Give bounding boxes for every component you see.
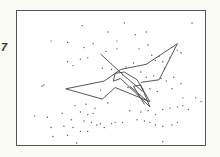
- scatter-point: [87, 57, 88, 58]
- scatter-point: [107, 102, 108, 103]
- scatter-point: [149, 88, 150, 89]
- scatter-point: [67, 135, 68, 136]
- scatter-point: [63, 126, 64, 127]
- scatter-point: [182, 97, 183, 98]
- scatter-point: [140, 111, 141, 112]
- crane-line-segment: [141, 85, 150, 107]
- scatter-point: [191, 22, 192, 23]
- crane-line-segment: [146, 44, 177, 65]
- scatter-point: [80, 131, 81, 132]
- scatter-point: [146, 77, 147, 78]
- scatter-point: [188, 109, 189, 110]
- scatter-point: [107, 31, 108, 32]
- scatter-point: [162, 126, 163, 127]
- scatter-point: [74, 105, 75, 106]
- scatter-point: [34, 115, 35, 116]
- crane-line-segment: [121, 64, 147, 69]
- scatter-point: [171, 88, 172, 89]
- crane-line-segment: [66, 81, 104, 89]
- scatter-point: [93, 43, 94, 44]
- scatter-point: [133, 62, 134, 63]
- scatter-point: [85, 104, 86, 105]
- crane-line-segment: [159, 44, 177, 80]
- scatter-point: [124, 22, 125, 23]
- scatter-point: [43, 84, 44, 85]
- crane-line-segment: [113, 79, 120, 82]
- scatter-point: [80, 111, 81, 112]
- scatter-point: [162, 61, 163, 62]
- scatter-point: [182, 105, 183, 106]
- scatter-point: [151, 55, 152, 56]
- crane-line-segment: [124, 72, 137, 80]
- scatter-point: [144, 120, 145, 121]
- scatter-point: [171, 124, 172, 125]
- scatter-point: [162, 109, 163, 110]
- scatter-point: [93, 113, 94, 114]
- crane-line-segment: [102, 88, 115, 100]
- scatter-point: [147, 44, 148, 45]
- scatter-point: [173, 77, 174, 78]
- scatter-point: [111, 69, 112, 70]
- scatter-point: [140, 71, 141, 72]
- scatter-point: [129, 110, 130, 111]
- scatter-point: [87, 114, 88, 115]
- scatter-point: [82, 25, 83, 26]
- scatter-point: [146, 31, 147, 32]
- scatter-point: [162, 141, 163, 142]
- scatter-point: [135, 34, 136, 35]
- scatter-point: [47, 117, 48, 118]
- scatter-point: [67, 61, 68, 62]
- scatter-point: [52, 136, 53, 137]
- scatter-point: [71, 119, 72, 120]
- scatter-point: [100, 123, 101, 124]
- scatter-point: [125, 66, 126, 67]
- crane-line-segment: [101, 54, 125, 76]
- scatter-point: [80, 58, 81, 59]
- scatter-point: [116, 40, 117, 41]
- scatter-point: [157, 91, 158, 92]
- crane-scatter-plot: [0, 0, 220, 157]
- scatter-point: [67, 42, 68, 43]
- scatter-point: [122, 122, 123, 123]
- scatter-point: [103, 127, 104, 128]
- scatter-point: [50, 40, 51, 41]
- scatter-point: [100, 89, 101, 90]
- scatter-point: [127, 87, 128, 88]
- scatter-point: [177, 49, 178, 50]
- scatter-point: [136, 119, 137, 120]
- scatter-point: [177, 106, 178, 107]
- scatter-point: [149, 122, 150, 123]
- scatter-point: [155, 124, 156, 125]
- scatter-point: [153, 75, 154, 76]
- scatter-point: [94, 107, 95, 108]
- scatter-point: [114, 122, 115, 123]
- scatter-point: [166, 80, 167, 81]
- scatter-point: [83, 120, 84, 121]
- scatter-point: [76, 142, 77, 143]
- scatter-point: [180, 52, 181, 53]
- scatter-point: [105, 51, 106, 52]
- scatter-point: [116, 48, 117, 49]
- scatter-point: [41, 86, 42, 87]
- scatter-point: [147, 110, 148, 111]
- scatter-point: [155, 114, 156, 115]
- scatter-point: [91, 122, 92, 123]
- crane-line-segment: [66, 89, 103, 99]
- scatter-point: [72, 65, 73, 66]
- scatter-point: [155, 60, 156, 61]
- crane-line-segment: [141, 80, 159, 83]
- scatter-point: [195, 97, 196, 98]
- scatter-point: [111, 123, 112, 124]
- scatter-point: [177, 122, 178, 123]
- scatter-point: [87, 131, 88, 132]
- scatter-point: [200, 101, 201, 102]
- scatter-point: [102, 67, 103, 68]
- scatter-point: [96, 124, 97, 125]
- scatter-point: [138, 48, 139, 49]
- scatter-point: [169, 107, 170, 108]
- scatter-point: [180, 83, 181, 84]
- scatter-point: [83, 47, 84, 48]
- scatter-point: [72, 127, 73, 128]
- scatter-point: [50, 127, 51, 128]
- crane-line-segment: [121, 79, 150, 107]
